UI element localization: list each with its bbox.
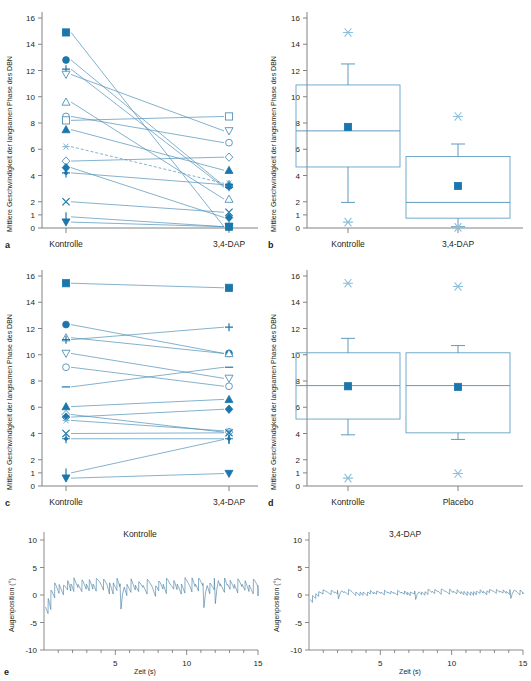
y-tick-label: 10	[293, 536, 302, 545]
marker-open-circle	[226, 139, 233, 146]
panel-c-ylabel: Mittlere Geschwindigkeit der langsamen P…	[6, 314, 14, 490]
panel-c-cat-1: 3,4-DAP	[213, 497, 245, 507]
marker-open-up-triangle	[62, 98, 70, 105]
y-tick-label: 14	[26, 298, 35, 307]
marker-open-circle	[63, 364, 70, 371]
panel-c: 01246810121416 c Mittlere Geschwindigkei…	[0, 258, 266, 514]
outlier-asterisk	[453, 469, 463, 477]
panel-d-ylabel: Mittlere Geschwindigkeit der langsamen P…	[270, 314, 278, 490]
panel-e-left-xlabel: Zeit (s)	[134, 668, 156, 676]
y-tick-label: 8	[31, 119, 36, 128]
connector-line	[71, 116, 224, 142]
marker-open-square	[225, 113, 232, 120]
y-tick-label: 4	[296, 172, 301, 181]
panel-b: 01246810121416 b Mittlere Geschwindigkei…	[265, 0, 531, 256]
y-tick-label: 4	[296, 430, 301, 439]
panel-c-cat-0: Kontrolle	[49, 497, 83, 507]
panel-e-left-plot: -10-5051051015 e Kontrolle Augenposition…	[0, 514, 266, 681]
eye-position-trace	[310, 589, 523, 602]
y-tick-label: 16	[26, 272, 35, 281]
panel-a-ylabel: Mittlere Geschwindigkeit der langsamen P…	[6, 56, 14, 232]
y-tick-label: 4	[31, 172, 36, 181]
y-tick-label: 2	[31, 456, 36, 465]
marker-filled-square	[62, 29, 69, 36]
panel-e-left-title: Kontrolle	[123, 529, 157, 539]
y-tick-label: 14	[291, 40, 300, 49]
x-tick-label: 10	[182, 659, 191, 668]
panel-b-label: b	[268, 240, 274, 250]
y-tick-label: 0	[298, 591, 303, 600]
panel-d-cat-0: Kontrolle	[331, 497, 365, 507]
mean-marker	[454, 383, 461, 390]
connector-line	[71, 353, 224, 378]
marker-filled-down-triangle	[62, 475, 70, 482]
panel-e-right-xlabel: Zeit (s)	[399, 668, 421, 676]
connector-line	[71, 474, 224, 479]
y-tick-label: 1	[296, 211, 301, 220]
figure-root: 01246810121416 a Mittlere Geschwindigkei…	[0, 0, 531, 681]
panel-e-right-title: 3,4-DAP	[389, 529, 421, 539]
marker-asterisk	[62, 144, 69, 150]
x-tick-label: 5	[113, 659, 118, 668]
panel-d-plot: 01246810121416 d Mittlere Geschwindigkei…	[265, 258, 531, 514]
y-tick-label: 2	[296, 456, 301, 465]
x-tick-label: 15	[254, 659, 263, 668]
connector-line	[71, 130, 224, 171]
mean-marker	[344, 123, 351, 130]
marker-filled-down-triangle	[62, 219, 70, 226]
marker-open-down-triangle	[225, 375, 233, 382]
panel-e-left: -10-5051051015 e Kontrolle Augenposition…	[0, 514, 266, 681]
mean-marker	[344, 383, 351, 390]
marker-open-diamond	[225, 153, 233, 161]
marker-open-down-triangle	[62, 71, 70, 78]
y-tick-label: 14	[26, 40, 35, 49]
y-tick-label: -10	[25, 646, 37, 655]
y-tick-label: 10	[26, 93, 35, 102]
panel-e-left-ylabel: Augenposition (°)	[8, 578, 16, 632]
marker-filled-plus	[227, 183, 230, 186]
y-tick-label: 12	[291, 67, 300, 76]
outlier-asterisk	[343, 279, 353, 287]
connector-line	[71, 168, 224, 218]
marker-filled-circle	[63, 57, 70, 64]
panel-b-plot: 01246810121416 b Mittlere Geschwindigkei…	[265, 0, 531, 256]
marker-cross-x	[62, 198, 69, 205]
marker-filled-up-triangle	[62, 126, 70, 133]
marker-open-square	[62, 117, 69, 124]
marker-filled-diamond	[225, 405, 233, 413]
y-tick-label: -10	[290, 646, 302, 655]
connector-line	[71, 409, 224, 417]
y-tick-label: 0	[31, 482, 36, 491]
connector-line	[71, 439, 224, 472]
panel-a-cat-0: Kontrolle	[49, 239, 83, 249]
marker-open-down-triangle	[225, 128, 233, 135]
marker-filled-down-triangle	[225, 470, 233, 477]
panel-c-label: c	[5, 498, 10, 508]
y-tick-label: 2	[31, 198, 36, 207]
y-tick-label: 12	[26, 325, 35, 334]
panel-b-cat-1: 3,4-DAP	[442, 239, 474, 249]
connector-line	[71, 420, 224, 431]
y-tick-label: 12	[291, 325, 300, 334]
y-tick-label: 12	[26, 67, 35, 76]
marker-filled-square	[225, 284, 232, 291]
connector-line	[71, 217, 224, 227]
connector-line	[71, 102, 224, 199]
y-tick-label: 0	[33, 591, 38, 600]
outlier-asterisk	[343, 474, 353, 482]
panel-e-right-plot: -10-5051051015 3,4-DAP Augenposition (°)…	[265, 514, 531, 681]
outlier-asterisk	[343, 218, 353, 226]
y-tick-label: 0	[296, 482, 301, 491]
panel-a: 01246810121416 a Mittlere Geschwindigkei…	[0, 0, 266, 256]
connector-line	[71, 202, 224, 213]
y-tick-label: 5	[33, 564, 38, 573]
marker-filled-up-triangle	[225, 395, 233, 402]
panel-a-label: a	[5, 240, 11, 250]
y-tick-label: -5	[30, 619, 38, 628]
marker-open-circle	[226, 383, 233, 390]
marker-filled-up-triangle	[225, 166, 233, 173]
mean-marker	[454, 182, 461, 189]
panel-d: 01246810121416 d Mittlere Geschwindigkei…	[265, 258, 531, 514]
y-tick-label: 0	[296, 224, 301, 233]
x-tick-label: 15	[519, 659, 528, 668]
